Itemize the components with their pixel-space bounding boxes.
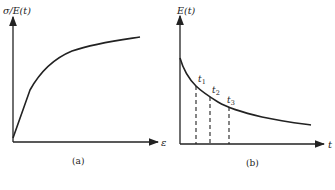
figure: σ/E(t) ε (a) t1 t2 t3 E(t) t (b) (0, 0, 335, 190)
panel-a-y-label: σ/E(t) (3, 5, 31, 16)
panel-a: σ/E(t) ε (a) (3, 5, 166, 166)
panel-a-x-label: ε (161, 137, 166, 148)
marker-t3-label: t3 (227, 95, 235, 107)
marker-t1-label: t1 (198, 74, 206, 86)
panel-b: t1 t2 t3 E(t) t (b) (176, 5, 333, 168)
panel-b-x-label: t (328, 139, 333, 150)
panel-b-curve (180, 58, 311, 125)
marker-t2-label: t2 (212, 85, 220, 97)
panel-b-caption: (b) (246, 158, 259, 168)
panel-a-curve (13, 37, 140, 138)
panel-a-caption: (a) (72, 156, 84, 166)
panel-b-y-label: E(t) (176, 5, 195, 16)
